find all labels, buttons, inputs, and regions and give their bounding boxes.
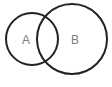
label-a: A (22, 33, 30, 47)
label-b: B (71, 33, 79, 47)
venn-diagram: A B (0, 0, 112, 87)
circle-a (6, 13, 58, 65)
